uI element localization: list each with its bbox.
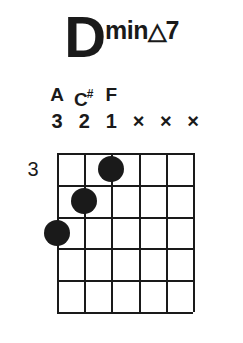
- fret-line-3: [57, 248, 193, 250]
- fret-line-5: [57, 312, 193, 314]
- fret-line-0: [57, 153, 193, 155]
- note-name-string-3: F: [91, 84, 131, 106]
- chord-quality-text: min: [105, 16, 148, 44]
- major-triangle-icon: △: [148, 20, 166, 43]
- chord-extension-number: 7: [165, 16, 178, 44]
- fret-line-4: [57, 280, 193, 282]
- finger-dot-string-1-fret-3: [44, 220, 70, 246]
- fret-position-marker: 3: [18, 158, 48, 180]
- string-line-5: [166, 153, 168, 312]
- chord-root-letter: D: [64, 4, 105, 69]
- string-line-2: [84, 153, 86, 312]
- finger-dot-string-2-fret-2: [71, 188, 97, 214]
- fingering-row: 321×××: [0, 110, 243, 132]
- fretboard-grid: [57, 153, 193, 312]
- note-letter: C: [74, 89, 88, 110]
- string-line-4: [139, 153, 141, 312]
- note-letter: A: [50, 84, 64, 105]
- note-names-row: AC#F: [0, 84, 243, 106]
- fret-line-2: [57, 217, 193, 219]
- muted-string-icon-6: ×: [173, 110, 213, 132]
- chord-name: Dmin△7: [0, 8, 243, 66]
- string-line-6: [193, 153, 195, 312]
- fret-line-1: [57, 185, 193, 187]
- note-letter: F: [106, 84, 118, 105]
- chord-quality-superscript: min△7: [105, 16, 179, 44]
